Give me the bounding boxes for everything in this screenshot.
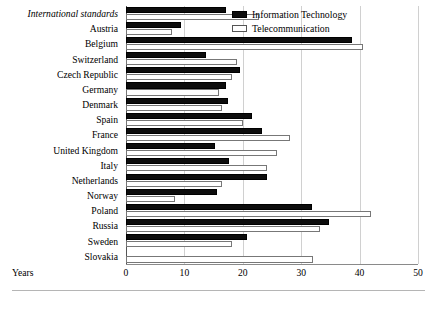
bar xyxy=(126,143,215,149)
bar xyxy=(126,120,243,126)
bar xyxy=(126,113,252,119)
bar-group xyxy=(126,36,418,51)
legend-swatch-icon-telecommunication xyxy=(232,25,247,32)
bar xyxy=(126,105,222,111)
bar xyxy=(126,181,222,187)
category-label: Czech Republic xyxy=(57,67,118,82)
bar-group xyxy=(126,203,418,218)
bar-group xyxy=(126,158,418,173)
bar xyxy=(126,189,217,195)
bar xyxy=(126,29,172,35)
bar xyxy=(126,59,237,65)
bar xyxy=(126,128,262,134)
x-tick-label: 40 xyxy=(355,266,365,280)
category-label: Austria xyxy=(90,21,118,36)
bar xyxy=(126,98,228,104)
legend-item-information-technology: Information Technology xyxy=(232,8,432,21)
bar xyxy=(126,7,226,13)
bar xyxy=(126,204,312,210)
category-label: Slovakia xyxy=(84,249,118,264)
legend-label: Telecommunication xyxy=(252,22,330,35)
bar xyxy=(126,82,226,88)
category-label: Belgium xyxy=(85,36,118,51)
x-axis-line xyxy=(126,264,418,265)
bar xyxy=(126,196,175,202)
bar-group xyxy=(126,67,418,82)
category-label: Norway xyxy=(87,188,118,203)
bar-group xyxy=(126,112,418,127)
bar-group xyxy=(126,97,418,112)
plot-area xyxy=(126,6,418,264)
category-label: Spain xyxy=(96,112,118,127)
bar xyxy=(126,89,219,95)
bar-group xyxy=(126,52,418,67)
x-tick-label: 10 xyxy=(180,266,190,280)
bar xyxy=(126,174,267,180)
bar xyxy=(126,256,313,262)
category-label: Sweden xyxy=(88,234,118,249)
bar-group xyxy=(126,249,418,264)
category-label: Italy xyxy=(100,158,118,173)
x-axis-tick-labels: 01020304050 xyxy=(126,266,426,282)
bar xyxy=(126,67,240,73)
bar-group xyxy=(126,127,418,142)
bottom-divider xyxy=(12,290,425,291)
bar xyxy=(126,135,290,141)
bar-group xyxy=(126,234,418,249)
bar xyxy=(126,226,320,232)
legend-swatch-icon-information-technology xyxy=(232,11,247,18)
category-label: Russia xyxy=(92,218,118,233)
bar xyxy=(126,22,181,28)
bar xyxy=(126,241,232,247)
legend-item-telecommunication: Telecommunication xyxy=(232,22,432,35)
bar-group xyxy=(126,188,418,203)
x-tick-label: 50 xyxy=(413,266,423,280)
x-tick-label: 0 xyxy=(124,266,129,280)
bar xyxy=(126,165,267,171)
bar-group xyxy=(126,173,418,188)
category-label: United Kingdom xyxy=(53,143,118,158)
bar xyxy=(126,52,206,58)
bar-group xyxy=(126,82,418,97)
bar xyxy=(126,211,371,217)
bar-chart: International standardsAustriaBelgiumSwi… xyxy=(0,0,437,313)
x-tick-label: 30 xyxy=(296,266,306,280)
bar xyxy=(126,219,329,225)
category-label: Denmark xyxy=(82,97,118,112)
bar-group xyxy=(126,218,418,233)
bar xyxy=(126,234,247,240)
category-label: Netherlands xyxy=(72,173,118,188)
category-label: France xyxy=(92,127,118,142)
category-label: Germany xyxy=(82,82,118,97)
chart-legend: Information Technology Telecommunication xyxy=(232,8,432,36)
legend-label: Information Technology xyxy=(252,8,347,21)
bar-group xyxy=(126,143,418,158)
category-label: Poland xyxy=(91,203,118,218)
x-axis-title: Years xyxy=(12,266,33,280)
bar xyxy=(126,37,352,43)
x-tick-label: 20 xyxy=(238,266,248,280)
bar xyxy=(126,74,232,80)
category-label: International standards xyxy=(27,6,118,21)
bar xyxy=(126,158,229,164)
bar xyxy=(126,150,277,156)
category-axis-labels: International standardsAustriaBelgiumSwi… xyxy=(0,6,122,264)
category-label: Switzerland xyxy=(72,52,118,67)
bar xyxy=(126,44,363,50)
gridline xyxy=(418,6,419,264)
